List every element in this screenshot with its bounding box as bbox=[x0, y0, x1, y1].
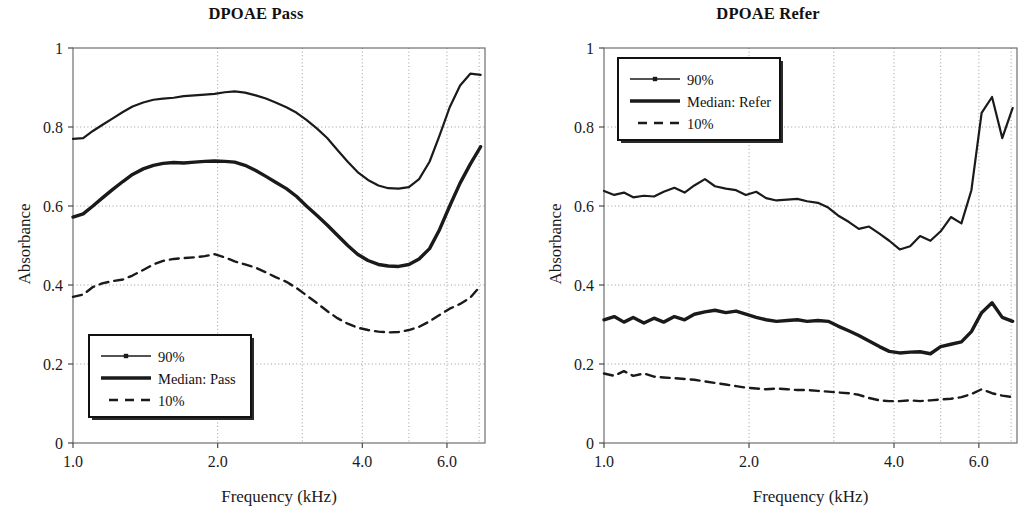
legend-label: 10% bbox=[158, 393, 185, 409]
series-line bbox=[604, 303, 1013, 354]
y-axis-title: Absorbance bbox=[546, 164, 566, 324]
legend-swatch-marker bbox=[124, 354, 128, 358]
x-tick-label: 1.0 bbox=[594, 453, 614, 470]
chart-panel-dpoae-refer: DPOAE Refer1.02.04.06.000.20.40.60.8190%… bbox=[512, 0, 1024, 512]
chart-panel-dpoae-pass: DPOAE Pass1.02.04.06.000.20.40.60.8190%M… bbox=[0, 0, 512, 512]
legend-swatch-marker bbox=[653, 77, 657, 81]
y-tick-label: 0.6 bbox=[574, 198, 594, 215]
y-tick-label: 0 bbox=[586, 435, 594, 452]
y-tick-label: 0.8 bbox=[574, 119, 594, 136]
y-tick-label: 1 bbox=[55, 40, 63, 57]
legend-label: Median: Refer bbox=[687, 94, 771, 110]
plot-area: 1.02.04.06.000.20.40.60.8190%Median: Pas… bbox=[0, 0, 512, 512]
x-tick-label: 4.0 bbox=[352, 453, 372, 470]
figure-root: DPOAE Pass1.02.04.06.000.20.40.60.8190%M… bbox=[0, 0, 1025, 512]
series-line bbox=[73, 254, 481, 332]
legend-label: Median: Pass bbox=[158, 371, 236, 387]
x-tick-label: 2.0 bbox=[739, 453, 759, 470]
x-tick-label: 2.0 bbox=[208, 453, 228, 470]
series-line bbox=[73, 74, 481, 189]
plot-area: 1.02.04.06.000.20.40.60.8190%Median: Ref… bbox=[512, 0, 1024, 512]
y-tick-label: 0.4 bbox=[43, 277, 63, 294]
y-tick-label: 0.4 bbox=[574, 277, 594, 294]
legend-label: 10% bbox=[687, 116, 714, 132]
series-line bbox=[604, 371, 1013, 401]
x-tick-label: 1.0 bbox=[63, 453, 83, 470]
x-tick-label: 6.0 bbox=[969, 453, 989, 470]
y-axis-title: Absorbance bbox=[15, 164, 35, 324]
x-tick-label: 4.0 bbox=[884, 453, 904, 470]
chart-legend: 90%Median: Refer10% bbox=[618, 58, 783, 143]
y-tick-label: 0.2 bbox=[574, 356, 594, 373]
series-line bbox=[73, 147, 481, 267]
y-tick-label: 0.6 bbox=[43, 198, 63, 215]
x-tick-label: 6.0 bbox=[437, 453, 457, 470]
legend-label: 90% bbox=[158, 349, 185, 365]
y-tick-label: 1 bbox=[586, 40, 594, 57]
x-axis-title: Frequency (kHz) bbox=[73, 487, 485, 507]
chart-legend: 90%Median: Pass10% bbox=[89, 335, 254, 420]
y-tick-label: 0.8 bbox=[43, 119, 63, 136]
y-tick-label: 0 bbox=[55, 435, 63, 452]
y-tick-label: 0.2 bbox=[43, 356, 63, 373]
legend-label: 90% bbox=[687, 72, 714, 88]
x-axis-title: Frequency (kHz) bbox=[604, 487, 1017, 507]
